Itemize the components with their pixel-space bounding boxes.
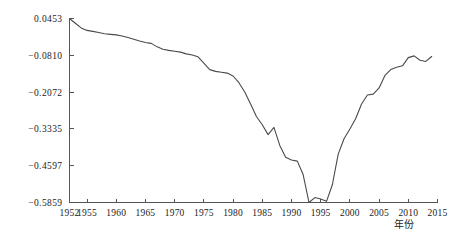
y-tick-label-0: 0.0453 (34, 14, 63, 24)
y-tick-label-1: −0.0810 (28, 51, 62, 61)
x-tick-label-13: 2015 (428, 208, 448, 218)
line-chart-svg: 0.0453−0.0810−0.2072−0.3335−0.4597−0.585… (0, 0, 449, 248)
y-tick-label-5: −0.5859 (28, 198, 62, 208)
x-tick-label-2: 1960 (106, 208, 126, 218)
x-tick-label-10: 2000 (340, 208, 360, 218)
y-tick-labels: 0.0453−0.0810−0.2072−0.3335−0.4597−0.585… (28, 14, 62, 208)
x-tick-label-1: 1955 (77, 208, 97, 218)
x-tick-label-3: 1965 (136, 208, 156, 218)
x-tick-label-12: 2010 (398, 208, 418, 218)
x-tick-labels: 1952195519601965197019751980198519901995… (60, 208, 448, 218)
x-axis-title: 年份 (394, 218, 414, 230)
x-tick-label-4: 1970 (165, 208, 185, 218)
series-line-0 (70, 19, 432, 203)
x-tick-label-6: 1980 (223, 208, 243, 218)
y-tick-label-2: −0.2072 (28, 88, 62, 98)
x-tick-label-9: 1995 (311, 208, 331, 218)
y-tick-label-3: −0.3335 (28, 124, 62, 134)
chart-figure: 0.0453−0.0810−0.2072−0.3335−0.4597−0.585… (0, 0, 449, 248)
chart-series (70, 19, 432, 203)
x-tick-label-8: 1990 (282, 208, 302, 218)
x-tick-label-7: 1985 (252, 208, 272, 218)
x-tick-label-11: 2005 (369, 208, 389, 218)
y-tick-label-4: −0.4597 (28, 161, 62, 171)
x-tick-label-5: 1975 (194, 208, 214, 218)
